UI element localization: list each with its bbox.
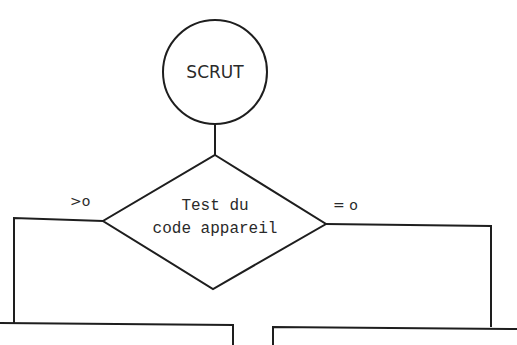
- bottom-left-box: [0, 323, 233, 345]
- right-branch-line: [326, 224, 491, 327]
- bottom-left-box-outline: [0, 323, 233, 345]
- start-node: SCRUT: [163, 20, 267, 124]
- left-branch: >o: [14, 193, 103, 324]
- bottom-right-box: [273, 327, 517, 345]
- start-label: SCRUT: [186, 62, 244, 82]
- decision-label-line1: Test du: [181, 197, 248, 215]
- right-branch-label: = o: [333, 197, 358, 213]
- left-branch-label: >o: [70, 193, 90, 209]
- decision-node: Test du code appareil: [103, 155, 326, 289]
- bottom-right-box-outline: [273, 327, 517, 345]
- left-branch-line: [14, 218, 103, 324]
- decision-label-line2: code appareil: [153, 220, 278, 238]
- flowchart: SCRUT Test du code appareil >o = o: [0, 0, 517, 345]
- right-branch: = o: [326, 197, 491, 327]
